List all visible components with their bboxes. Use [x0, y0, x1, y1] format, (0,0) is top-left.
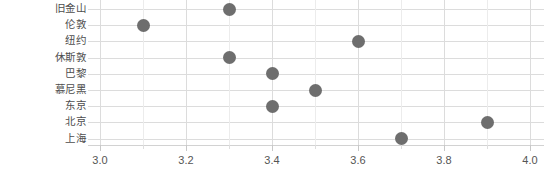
horizontal-gridline	[88, 58, 544, 59]
x-axis-line	[88, 145, 544, 146]
y-axis-category-labels: 旧金山伦敦纽约休斯敦巴黎慕尼黑东京北京上海	[0, 0, 86, 145]
y-axis-label-2: 纽约	[0, 35, 86, 46]
horizontal-gridline	[88, 139, 544, 140]
y-axis-label-5: 慕尼黑	[0, 84, 86, 95]
y-axis-label-6: 东京	[0, 100, 86, 111]
scatter-chart: 旧金山伦敦纽约休斯敦巴黎慕尼黑东京北京上海 3.03.23.43.63.84.0	[0, 0, 544, 181]
x-axis-tick-label-3: 3.6	[333, 154, 383, 167]
x-axis-tick-label-5: 4.0	[505, 154, 544, 167]
x-axis-tick-label-4: 3.8	[419, 154, 469, 167]
horizontal-gridline	[88, 106, 544, 107]
plot-area	[88, 0, 544, 145]
vertical-gridline	[444, 0, 445, 145]
vertical-gridline	[186, 0, 187, 145]
x-axis-tick	[186, 145, 187, 151]
horizontal-gridline	[88, 122, 544, 123]
x-axis-tick	[272, 145, 273, 151]
data-point	[481, 116, 494, 129]
horizontal-gridline	[88, 9, 544, 10]
data-point	[137, 19, 150, 32]
y-axis-label-0: 旧金山	[0, 3, 86, 14]
vertical-gridline-minor	[401, 0, 402, 145]
x-axis-tick-label-0: 3.0	[75, 154, 125, 167]
horizontal-gridline	[88, 41, 544, 42]
data-point	[223, 3, 236, 16]
x-axis-tick-minor	[401, 145, 402, 149]
x-axis-tick-minor	[315, 145, 316, 149]
x-axis-tick	[358, 145, 359, 151]
vertical-gridline	[530, 0, 531, 145]
data-point	[266, 67, 279, 80]
horizontal-gridline	[88, 74, 544, 75]
x-axis-tick-label-1: 3.2	[161, 154, 211, 167]
y-axis-label-1: 伦敦	[0, 19, 86, 30]
x-axis-tick	[100, 145, 101, 151]
data-point	[223, 51, 236, 64]
y-axis-label-7: 北京	[0, 116, 86, 127]
vertical-gridline	[100, 0, 101, 145]
x-axis-tick	[444, 145, 445, 151]
x-axis: 3.03.23.43.63.84.0	[88, 145, 544, 181]
horizontal-gridline	[88, 25, 544, 26]
vertical-gridline-minor	[315, 0, 316, 145]
vertical-gridline-minor	[229, 0, 230, 145]
data-point	[309, 84, 322, 97]
y-axis-label-8: 上海	[0, 133, 86, 144]
x-axis-tick-minor	[143, 145, 144, 149]
data-point	[266, 100, 279, 113]
data-point	[395, 132, 408, 145]
y-axis-label-4: 巴黎	[0, 68, 86, 79]
x-axis-tick	[530, 145, 531, 151]
x-axis-tick-label-2: 3.4	[247, 154, 297, 167]
data-point	[352, 35, 365, 48]
vertical-gridline	[358, 0, 359, 145]
x-axis-tick-minor	[229, 145, 230, 149]
x-axis-tick-minor	[487, 145, 488, 149]
y-axis-label-3: 休斯敦	[0, 52, 86, 63]
